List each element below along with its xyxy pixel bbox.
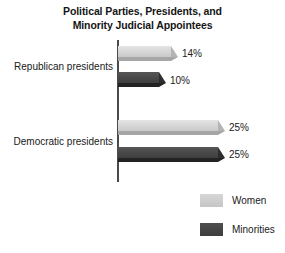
bar-republican-women xyxy=(118,46,178,61)
bar-shadow xyxy=(118,158,225,162)
legend-swatch-minorities-icon xyxy=(200,223,223,236)
plot-area: Republican presidents Democratic preside… xyxy=(0,0,285,253)
bar-face xyxy=(118,120,218,131)
bar-side xyxy=(218,120,225,131)
bar-face xyxy=(118,46,171,57)
bar-shadow xyxy=(118,131,225,135)
bar-shadow xyxy=(118,57,178,61)
bar-shadow xyxy=(118,83,166,87)
legend-label-minorities: Minorities xyxy=(232,222,275,237)
bar-face xyxy=(118,72,159,83)
value-label-democratic-minorities: 25% xyxy=(229,149,249,161)
value-label-democratic-women: 25% xyxy=(229,122,249,134)
value-label-republican-minorities: 10% xyxy=(170,75,190,87)
bar-democratic-women xyxy=(118,120,225,135)
bar-side xyxy=(159,72,166,83)
bar-side xyxy=(218,147,225,158)
bar-side xyxy=(171,46,178,57)
legend-label-women: Women xyxy=(232,193,266,208)
category-label-republican-presidents: Republican presidents xyxy=(14,61,113,73)
bar-democratic-minorities xyxy=(118,147,225,162)
value-label-republican-women: 14% xyxy=(182,48,202,60)
bar-republican-minorities xyxy=(118,72,166,87)
bar-face xyxy=(118,147,218,158)
legend-swatch-women-icon xyxy=(200,194,223,207)
category-label-democratic-presidents: Democratic presidents xyxy=(14,136,113,148)
